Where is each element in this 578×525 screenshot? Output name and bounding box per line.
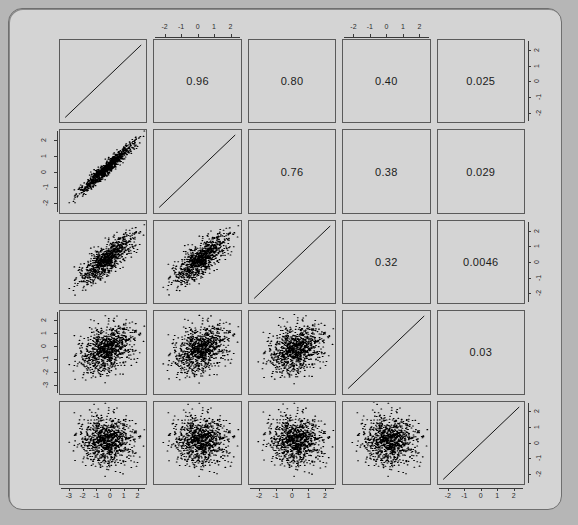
tick-label: 0 [384, 23, 388, 30]
y-axis-left-row2: 210-1-2 [40, 129, 58, 213]
tick-label: 0 [196, 23, 200, 30]
tick-mark [292, 488, 293, 491]
tick-label: -2 [535, 109, 542, 115]
correlation-panel-r1c3: 0.80 [248, 39, 336, 123]
scatter-points [249, 402, 335, 484]
tick-label: 2 [40, 318, 47, 322]
identity-line [154, 130, 240, 212]
tick-mark [110, 488, 111, 491]
tick-mark [181, 34, 182, 37]
tick-label: 2 [40, 138, 47, 142]
tick-mark [528, 427, 531, 428]
tick-label: 2 [136, 492, 140, 499]
tick-mark [528, 262, 531, 263]
tick-label: 2 [512, 492, 516, 499]
tick-label: 0 [479, 492, 483, 499]
tick-label: 2 [533, 48, 540, 52]
correlation-value: 0.025 [438, 40, 524, 122]
identity-line [343, 311, 429, 393]
tick-mark [528, 113, 531, 114]
tick-label: -1 [42, 184, 49, 190]
axis-line [57, 312, 58, 392]
correlation-panel-r2c3: 0.76 [248, 129, 336, 213]
correlation-value: 0.38 [343, 130, 429, 212]
tick-mark [370, 34, 371, 37]
correlation-value: 0.32 [343, 221, 429, 303]
x-axis-top-col4: -2-1012 [342, 22, 430, 38]
scatter-points [60, 311, 146, 393]
x-axis-bottom-col3: -2-1012 [248, 488, 336, 504]
correlation-panel-r2c4: 0.38 [342, 129, 430, 213]
diagonal-panel-5 [437, 401, 525, 485]
tick-mark [96, 488, 97, 491]
scatter-panel-r4c2 [153, 310, 241, 394]
tick-label: 2 [417, 23, 421, 30]
tick-label: -2 [445, 492, 451, 499]
tick-mark [54, 372, 57, 373]
correlation-panel-r3c4: 0.32 [342, 220, 430, 304]
tick-label: -2 [350, 23, 356, 30]
tick-mark [464, 488, 465, 491]
diagonal-panel-1 [59, 39, 147, 123]
tick-mark [528, 81, 531, 82]
tick-label: -1 [272, 492, 278, 499]
tick-label: -2 [79, 492, 85, 499]
scatter-points [154, 311, 240, 393]
y-axis-left-row4: 210-1-2-3 [40, 310, 58, 394]
tick-label: 1 [495, 492, 499, 499]
correlation-panel-r1c4: 0.40 [342, 39, 430, 123]
scatter-points [154, 221, 240, 303]
scatter-points [60, 402, 146, 484]
tick-label: 1 [533, 64, 540, 68]
tick-mark [138, 488, 139, 491]
tick-mark [54, 333, 57, 334]
scatter-points [60, 221, 146, 303]
x-axis-top-col2: -2-1012 [153, 22, 241, 38]
tick-mark [54, 385, 57, 386]
scatter-panel-r5c1 [59, 401, 147, 485]
diagonal-panel-2 [153, 129, 241, 213]
tick-mark [214, 34, 215, 37]
tick-label: 0 [533, 79, 540, 83]
tick-label: -3 [42, 382, 49, 388]
correlation-value: 0.80 [249, 40, 335, 122]
tick-label: 0 [40, 344, 47, 348]
identity-line [438, 402, 524, 484]
tick-label: -1 [367, 23, 373, 30]
y-axis-right-row3: 210-1-2 [528, 220, 546, 304]
figure-panel: 0.960.800.400.0250.760.380.0290.320.0046… [8, 8, 562, 510]
tick-label: 2 [533, 229, 540, 233]
tick-mark [276, 488, 277, 491]
tick-label: 2 [533, 409, 540, 413]
y-axis-right-row5: 210-1-2 [528, 401, 546, 485]
tick-label: -2 [535, 471, 542, 477]
axis-line [344, 37, 428, 38]
x-axis-bottom-col1: -3-2-1012 [59, 488, 147, 504]
tick-mark [528, 411, 531, 412]
tick-mark [54, 203, 57, 204]
diagonal-panel-3 [248, 220, 336, 304]
axis-line [57, 131, 58, 211]
tick-label: 1 [533, 425, 540, 429]
y-axis-right-row1: 210-1-2 [528, 39, 546, 123]
tick-mark [528, 246, 531, 247]
identity-line [249, 221, 335, 303]
tick-label: 0 [533, 441, 540, 445]
diagonal-panel-4 [342, 310, 430, 394]
tick-mark [528, 278, 531, 279]
tick-label: -1 [461, 492, 467, 499]
tick-mark [198, 34, 199, 37]
tick-mark [83, 488, 84, 491]
axis-line [155, 37, 239, 38]
correlation-value: 0.03 [438, 311, 524, 393]
tick-mark [528, 66, 531, 67]
tick-mark [54, 346, 57, 347]
correlation-value: 0.40 [343, 40, 429, 122]
tick-mark [528, 443, 531, 444]
scatter-points [249, 311, 335, 393]
tick-mark [54, 156, 57, 157]
tick-label: -2 [162, 23, 168, 30]
tick-label: -1 [42, 356, 49, 362]
correlation-panel-r1c5: 0.025 [437, 39, 525, 123]
tick-label: 0 [533, 260, 540, 264]
